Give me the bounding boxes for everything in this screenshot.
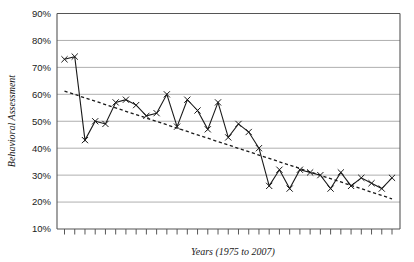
y-tick-label: 20% (32, 196, 52, 207)
chart-background (0, 0, 414, 262)
y-tick-label: 80% (32, 35, 52, 46)
y-tick-label: 40% (32, 143, 52, 154)
y-tick-label: 90% (32, 8, 52, 19)
y-tick-label: 30% (32, 170, 52, 181)
x-axis-label: Years (1975 to 2007) (191, 246, 275, 258)
y-axis-label: Behavioral Assessment (6, 75, 17, 168)
y-axis-tick-labels: 90%80%70%60%50%40%30%20%10% (32, 8, 52, 235)
y-tick-label: 70% (32, 62, 52, 73)
chart-figure: 90%80%70%60%50%40%30%20%10% Behavioral A… (0, 0, 414, 262)
y-tick-label: 60% (32, 89, 52, 100)
y-tick-label: 50% (32, 116, 52, 127)
y-tick-label: 10% (32, 223, 52, 234)
